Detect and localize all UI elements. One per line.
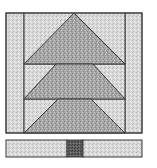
left-side-strip xyxy=(6,13,24,133)
trunk-bar-trunk xyxy=(67,140,83,157)
right-side-strip xyxy=(125,13,142,133)
trunk-bar-left-section xyxy=(6,140,67,157)
trunk-bar-right-section xyxy=(83,140,142,157)
tree-quilt-block-diagram xyxy=(0,0,157,168)
